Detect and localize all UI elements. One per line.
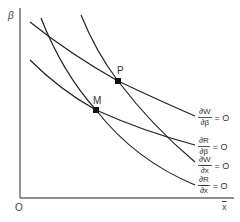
numerator: ∂W — [198, 156, 212, 166]
numerator: ∂R — [198, 137, 210, 147]
fraction: ∂W ∂x — [198, 156, 212, 175]
equals-zero: = O — [213, 142, 228, 152]
fraction: ∂R ∂x — [198, 176, 210, 195]
curve-dR-dxbar — [41, 18, 195, 185]
curve-dW-dbeta — [30, 22, 195, 116]
numerator: ∂W — [198, 108, 212, 118]
origin-label: O — [15, 202, 23, 213]
label-dW-dbeta: ∂W ∂β = O — [198, 108, 229, 127]
point-M-label: M — [93, 96, 101, 106]
equals-zero: = O — [215, 113, 230, 123]
fraction: ∂W ∂β — [198, 108, 212, 127]
point-P-label: P — [117, 66, 124, 76]
label-dW-dxbar: ∂W ∂x = O — [198, 156, 229, 175]
label-dR-dbeta: ∂R ∂β = O — [198, 137, 228, 156]
y-axis-label: β — [8, 10, 14, 21]
fraction: ∂R ∂β — [198, 137, 210, 156]
equals-zero: = O — [215, 161, 230, 171]
denominator: ∂x — [200, 186, 208, 195]
equals-zero: = O — [213, 181, 228, 191]
numerator: ∂R — [198, 176, 210, 186]
denominator: ∂β — [200, 118, 209, 127]
label-dR-dxbar: ∂R ∂x = O — [198, 176, 228, 195]
point-M-marker — [93, 107, 99, 113]
x-axis-label: x — [222, 202, 227, 212]
point-P-marker — [115, 78, 121, 84]
denominator: ∂x — [201, 166, 209, 175]
